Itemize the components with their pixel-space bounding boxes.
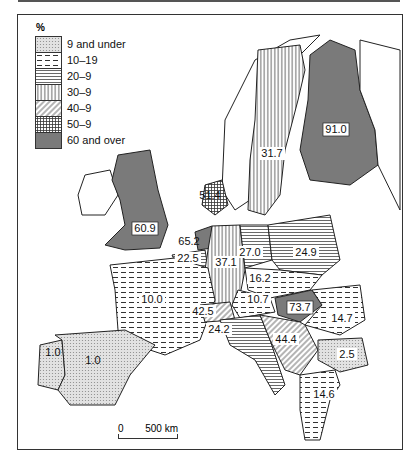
label-spain: 1.0 xyxy=(85,354,100,366)
label-france: 10.0 xyxy=(141,293,162,305)
label-romania: 14.7 xyxy=(331,312,352,324)
label-belgium: 22.5 xyxy=(177,252,198,264)
label-italy: 24.2 xyxy=(208,323,229,335)
scale-start: 0 xyxy=(118,423,124,434)
legend-item: 30–9 xyxy=(35,84,126,100)
label-yugoslavia: 44.4 xyxy=(275,333,296,345)
label-switzerland: 42.5 xyxy=(192,305,213,317)
scale-bar: 0500 km xyxy=(118,423,178,439)
label-greece: 14.6 xyxy=(313,388,334,400)
scale-line xyxy=(118,434,178,439)
label-czechoslovakia: 16.2 xyxy=(249,272,270,284)
label-hungary: 73.7 xyxy=(289,301,310,313)
label-east-germany: 27.0 xyxy=(239,246,260,258)
legend-item: 20–9 xyxy=(35,68,126,84)
legend-item: 10–19 xyxy=(35,52,126,68)
label-austria: 10.7 xyxy=(247,293,268,305)
legend-item: 60 and over xyxy=(35,132,126,148)
legend-unit: % xyxy=(36,22,126,33)
label-sweden: 31.7 xyxy=(261,147,282,159)
legend-item: 50–9 xyxy=(35,116,126,132)
label-denmark: 51.4 xyxy=(199,189,220,201)
label-netherlands: 65.2 xyxy=(178,235,199,247)
label-poland: 24.9 xyxy=(295,246,316,258)
legend-item: 9 and under xyxy=(35,36,126,52)
scale-end: 500 km xyxy=(145,423,178,434)
label-west-germany: 37.1 xyxy=(215,256,236,268)
legend-item: 40–9 xyxy=(35,100,126,116)
label-uk: 60.9 xyxy=(134,222,155,234)
legend: % 9 and under 10–19 20–9 30–9 40–9 50–9 … xyxy=(35,22,126,148)
label-bulgaria: 2.5 xyxy=(339,348,354,360)
label-portugal: 1.0 xyxy=(45,346,60,358)
label-finland: 91.0 xyxy=(325,123,346,135)
